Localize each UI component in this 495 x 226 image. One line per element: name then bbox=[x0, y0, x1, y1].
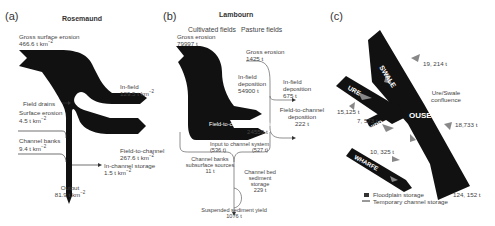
channel-banks-value: 9.4 t km−2 bbox=[19, 145, 46, 152]
input-channel-left: (536 t) bbox=[210, 147, 226, 154]
panel-b-label: (b) bbox=[163, 10, 176, 22]
in-field-dep-past-label2: deposition bbox=[283, 85, 311, 92]
river-label-ouse: OUSE bbox=[409, 112, 432, 119]
field-drains-label: Field drains bbox=[23, 100, 55, 107]
in-field-label: In-field bbox=[120, 83, 139, 90]
output-value: 81.9 t km−2 bbox=[44, 191, 96, 198]
outlet-value: 124, 152 t bbox=[453, 191, 481, 198]
panel-a-title: Rosemaund bbox=[62, 15, 102, 22]
field-to-channel-past-label2: deposition bbox=[272, 113, 332, 120]
panel-c-rivers bbox=[336, 30, 470, 200]
wharfe-value: 10, 325 t bbox=[370, 148, 394, 155]
field-to-channel-past-label1: Field-to-channel bbox=[272, 106, 332, 113]
gross-erosion-pasture-label: Gross erosion bbox=[246, 48, 285, 55]
in-field-dep-past-label1: In-field bbox=[283, 78, 302, 85]
field-to-channel-past-value: 222 t bbox=[272, 120, 332, 127]
input-channel-right: (527 t) bbox=[252, 147, 268, 154]
legend-temporary-channel-storage: Temporary channel storage bbox=[373, 198, 448, 205]
surface-erosion-label: Surface erosion bbox=[19, 109, 62, 116]
panel-a-flows bbox=[19, 50, 147, 204]
gross-erosion-pasture-value: 1425 t bbox=[246, 55, 263, 62]
in-field-dep-past-value: 675 t bbox=[283, 92, 297, 99]
panel-b-title: Lambourn bbox=[219, 11, 253, 18]
nidd-value: 7, 573 t bbox=[357, 117, 378, 124]
panel-c-label: (c) bbox=[330, 10, 343, 22]
confluence-line1: Ure/Swale bbox=[426, 89, 466, 96]
channel-banks-label: Channel banks bbox=[19, 137, 60, 144]
channel-banks-b-value: 11 t bbox=[180, 168, 240, 175]
ure-value: 15,125 t bbox=[337, 108, 359, 115]
cultivated-fields-heading: Cultivated fields bbox=[188, 26, 236, 33]
in-field-value: 129.5 t km−2 bbox=[120, 90, 154, 97]
panel-a-label: (a) bbox=[5, 10, 18, 22]
confluence-line2: confluence bbox=[426, 96, 466, 103]
field-to-channel-label: Field-to-channel bbox=[120, 147, 164, 154]
field-to-channel-cult-label: Field-to-channel deposition bbox=[209, 121, 276, 128]
in-channel-storage-value: 1.5 t km−2 bbox=[104, 169, 131, 176]
gross-erosion-cultivated-label: Gross erosion bbox=[177, 33, 216, 40]
in-field-dep-cult-label1: In-field bbox=[238, 73, 257, 80]
field-to-channel-cult-value: 24559 t bbox=[247, 128, 268, 135]
floodplain-storage-legend-icon bbox=[364, 193, 369, 197]
swale-value: 19, 214 t bbox=[423, 60, 447, 67]
channel-bed-value: 229 t bbox=[240, 187, 280, 194]
pasture-fields-heading: Pasture fields bbox=[241, 26, 282, 33]
ouse-value: 18,733 t bbox=[455, 121, 477, 128]
in-field-dep-cult-label2: deposition bbox=[238, 80, 266, 87]
in-field-dep-cult-value: 54900 t bbox=[238, 87, 259, 94]
surface-erosion-value: 4.5 t km−2 bbox=[19, 117, 46, 124]
gross-surface-erosion-value: 466.6 t km−2 bbox=[19, 40, 53, 47]
field-to-channel-value: 267.6 t km−2 bbox=[120, 154, 154, 161]
suspended-yield-value: 1076 t bbox=[198, 213, 270, 220]
gross-erosion-cultivated-value: 79997 t bbox=[177, 40, 198, 47]
legend-floodplain-storage: Floodplain storage bbox=[373, 191, 424, 198]
